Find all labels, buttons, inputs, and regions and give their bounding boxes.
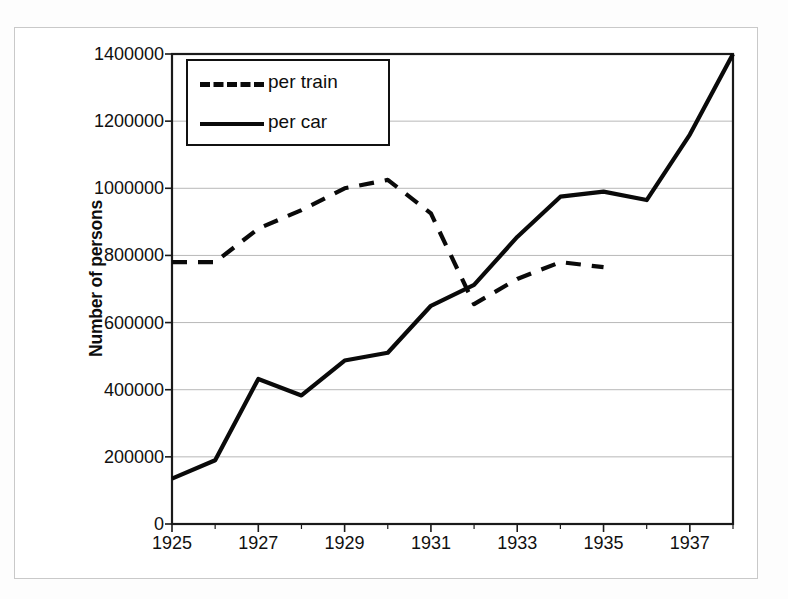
x-axis-tick-label: 1933 [477,534,557,552]
x-axis-tick-label: 1925 [132,534,212,552]
chart-legend: per train per car [186,59,390,146]
y-axis-tick-label: 1200000 [44,112,164,130]
y-axis-tick-label: 200000 [44,448,164,466]
x-axis-tick-label: 1935 [564,534,644,552]
legend-item-per-train: per train [188,64,392,104]
y-axis-tick-label: 1000000 [44,179,164,197]
x-axis-tick-label: 1929 [305,534,385,552]
x-axis-tick-label: 1927 [218,534,298,552]
legend-label: per train [268,71,338,93]
y-axis-tick-label: 400000 [44,381,164,399]
gridlines [172,121,733,457]
figure-root: Number of persons 0200000400000600000800… [0,0,788,599]
legend-label: per car [268,111,327,133]
solid-line-icon [200,122,264,126]
series-line-per-train [172,180,604,304]
x-axis-tick-label: 1937 [650,534,730,552]
y-axis-tick-label: 800000 [44,246,164,264]
y-axis-tick-label: 0 [44,515,164,533]
y-axis-tick-label: 1400000 [44,45,164,63]
x-axis-tick-label: 1931 [391,534,471,552]
legend-item-per-car: per car [188,104,392,144]
y-axis-tick-labels: 0200000400000600000800000100000012000001… [42,0,164,599]
dashed-line-icon [200,82,264,87]
x-axis-tick-labels: 1925192719291931193319351937 [0,534,788,564]
y-axis-tick-label: 600000 [44,314,164,332]
x-axis-ticks [172,524,733,532]
